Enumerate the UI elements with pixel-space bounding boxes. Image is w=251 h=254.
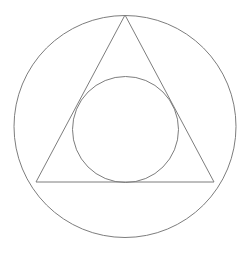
geometric-figure: Circle with inscribed triangle and inscr… bbox=[0, 0, 251, 254]
figure-background bbox=[0, 0, 251, 254]
figure-canvas: Circle with inscribed triangle and inscr… bbox=[0, 0, 251, 254]
